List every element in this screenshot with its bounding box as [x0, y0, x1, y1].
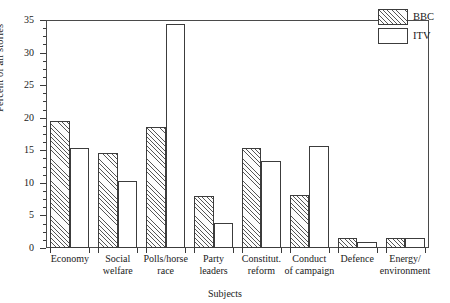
x-cat-label-7: Energy/environment [375, 253, 435, 276]
x-cat-label-line: Energy/ [375, 253, 435, 265]
y-tick-label: 15 [12, 145, 34, 155]
legend-row-itv: ITV [378, 27, 448, 46]
legend-swatch-bbc [378, 9, 408, 25]
bar-bbc-0 [50, 121, 70, 248]
bar-bbc-3 [194, 196, 214, 248]
y-tick-major [40, 248, 46, 249]
bar-itv-4 [261, 161, 281, 248]
bar-itv-0 [70, 148, 90, 248]
legend-swatch-itv [378, 28, 408, 44]
bar-itv-3 [214, 223, 234, 248]
bar-bbc-2 [146, 127, 166, 248]
bar-itv-1 [118, 181, 138, 248]
legend-row-bbc: BBC [378, 8, 448, 27]
x-axis-title: Subjects [0, 288, 450, 299]
bar-itv-6 [357, 242, 377, 248]
y-tick-label: 25 [12, 80, 34, 90]
legend-label-bbc: BBC [413, 11, 434, 22]
y-axis-title: Percent of all stories [0, 0, 5, 112]
bar-chart-figure: Percent of all stories 05101520253035 Ec… [0, 0, 450, 303]
bar-itv-2 [166, 24, 186, 248]
bar-bbc-7 [386, 238, 406, 248]
bar-itv-5 [309, 146, 329, 248]
y-tick-label: 10 [12, 178, 34, 188]
y-tick-label: 0 [12, 243, 34, 253]
bar-bbc-6 [338, 238, 358, 248]
x-cat-label-line: environment [375, 265, 435, 277]
legend-label-itv: ITV [413, 30, 431, 41]
y-tick-label: 20 [12, 113, 34, 123]
bar-bbc-5 [290, 195, 310, 248]
bar-bbc-4 [242, 148, 262, 248]
legend: BBC ITV [378, 8, 448, 46]
y-tick-label: 30 [12, 48, 34, 58]
y-tick-label: 35 [12, 15, 34, 25]
x-cat-label-line: of campaign [279, 265, 339, 277]
bar-bbc-1 [98, 153, 118, 248]
bars-layer [46, 20, 429, 248]
bar-itv-7 [405, 238, 425, 248]
y-tick-label: 5 [12, 210, 34, 220]
